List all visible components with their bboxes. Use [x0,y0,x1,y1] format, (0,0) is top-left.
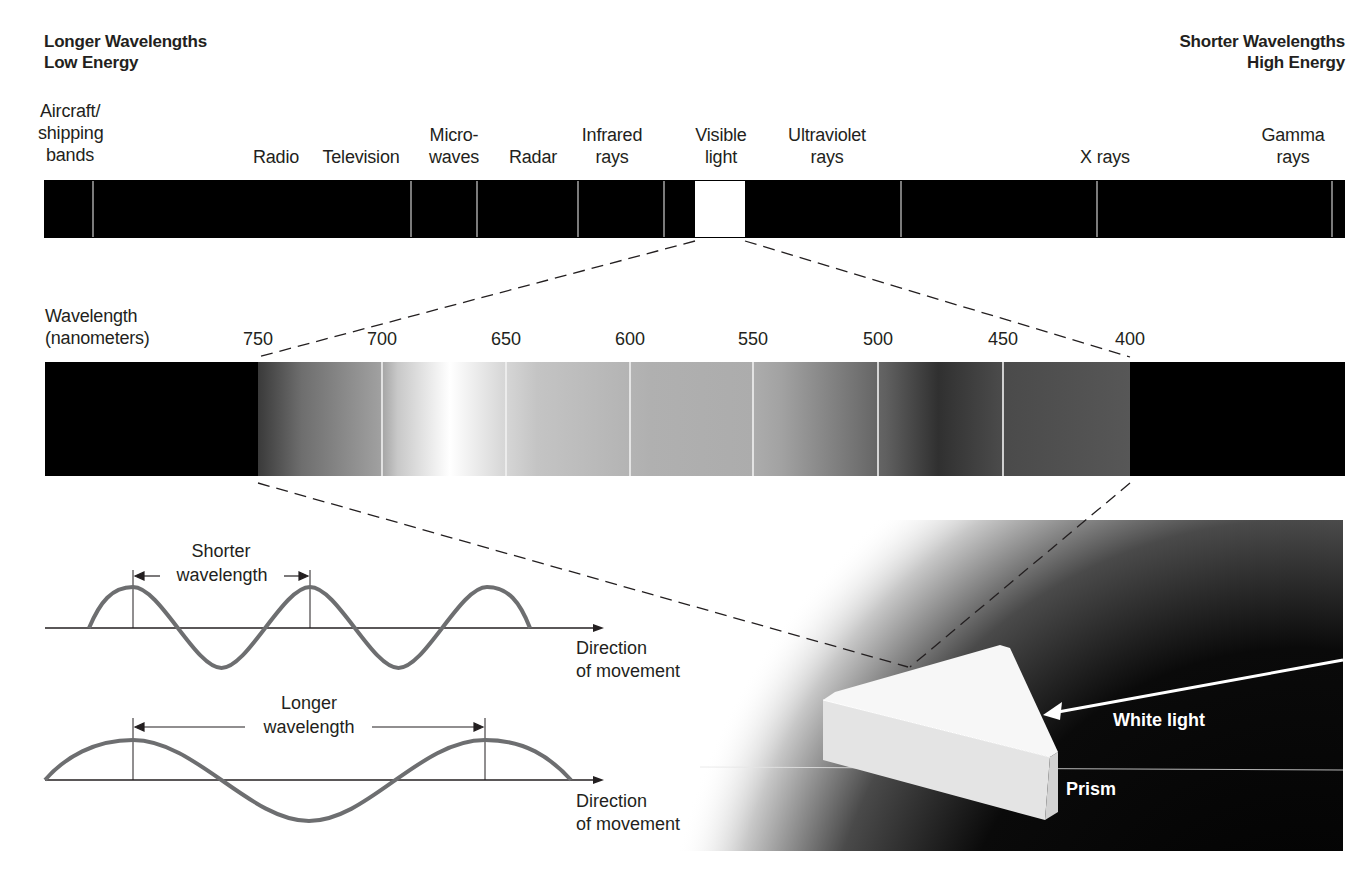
tick-label-750: 750 [243,328,273,350]
header-right-line1: Shorter Wavelengths [1179,31,1345,52]
band-label-infrared: Infrared rays [582,124,642,168]
band-label-television: Television [322,146,399,168]
visible-spectrum-bar [45,362,1345,476]
band-label-radio: Radio [253,146,299,168]
diagram-graphics [0,0,1371,872]
header-shorter-wavelengths: Shorter Wavelengths High Energy [1179,31,1345,73]
header-left-line1: Longer Wavelengths [44,31,207,52]
band-label-gamma: Gamma rays [1261,124,1324,168]
short-wave-diagram [45,570,604,668]
band-label-xrays: X rays [1080,146,1130,168]
tick-label-700: 700 [367,328,397,350]
short-wave-label-line2: wavelength [174,564,269,586]
short-wave-label-line1: Shorter [191,540,250,562]
long-wave-label-line1: Longer [281,692,337,714]
tick-label-400: 400 [1115,328,1145,350]
band-label-microwaves: Micro- waves [429,124,479,168]
visible-light-segment [695,181,745,237]
header-right-line2: High Energy [1179,52,1345,73]
long-wave-label-line2: wavelength [257,716,360,738]
tick-label-650: 650 [491,328,521,350]
header-left-line2: Low Energy [44,52,207,73]
wavelength-axis-label: Wavelength (nanometers) [45,305,150,349]
short-wave-direction-label: Direction of movement [576,637,680,683]
prism-label: Prism [1066,779,1116,800]
band-label-aircraft: Aircraft/ shipping bands [38,100,103,166]
band-label-ultraviolet: Ultraviolet rays [788,124,866,168]
tick-label-450: 450 [988,328,1018,350]
band-label-visible: Visible light [695,124,746,168]
header-longer-wavelengths: Longer Wavelengths Low Energy [44,31,207,73]
white-light-label: White light [1113,710,1205,731]
band-label-radar: Radar [509,146,557,168]
tick-label-500: 500 [863,328,893,350]
long-wave-direction-label: Direction of movement [576,790,680,836]
tick-label-600: 600 [615,328,645,350]
em-spectrum-bar [44,180,1345,238]
tick-label-550: 550 [738,328,768,350]
